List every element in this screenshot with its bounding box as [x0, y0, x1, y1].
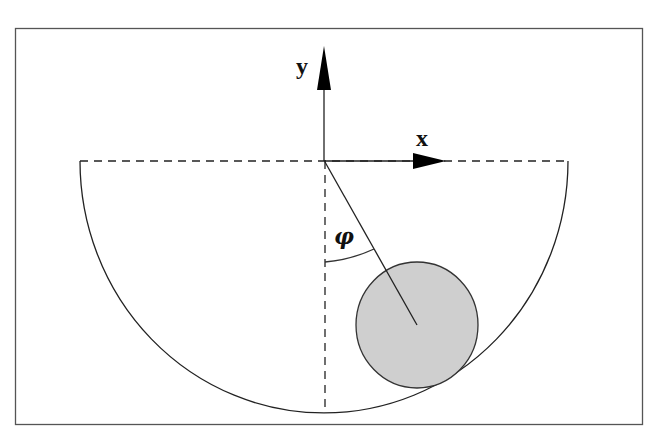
angle-arc — [325, 249, 374, 262]
x-axis-label: x — [416, 125, 428, 151]
y-axis-label: y — [296, 53, 308, 79]
y-axis-arrow-icon — [317, 46, 331, 90]
x-axis-arrow-icon — [413, 153, 446, 169]
pendulum-ball-in-trough-diagram: y x φ — [0, 0, 654, 431]
trough-arc — [80, 161, 568, 413]
angle-phi-label: φ — [334, 223, 354, 249]
